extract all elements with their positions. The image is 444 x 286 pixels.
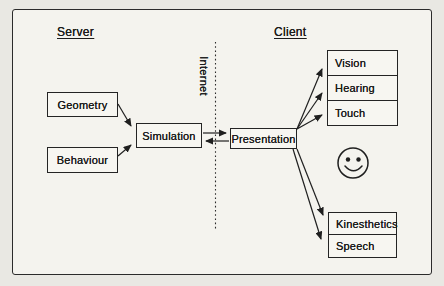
server-region-label: Server [57,25,94,39]
client-region-label: Client [274,25,306,39]
touch-node: Touch [327,100,398,126]
internet-divider-label: Internet [198,48,210,104]
speech-node: Speech [328,234,397,258]
behaviour-node: Behaviour [47,147,118,173]
hearing-node: Hearing [327,75,398,101]
presentation-node: Presentation [230,128,297,149]
diagram-canvas: Server Client Internet G [0,0,444,286]
kinesthetics-node: Kinesthetics [328,212,397,235]
simulation-node: Simulation [136,123,202,148]
vision-node: Vision [327,50,398,76]
geometry-node: Geometry [47,92,118,117]
